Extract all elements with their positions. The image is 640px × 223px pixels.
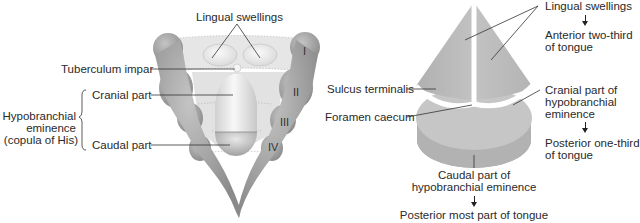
label-lingual-swellings-left: Lingual swellings [196, 11, 283, 24]
label-foramen-caecum: Foramen caecum [325, 111, 414, 124]
label-caudal-part: Caudal part [92, 139, 151, 152]
tongue-diagram [416, 2, 534, 168]
arch-label-2: II [293, 86, 299, 98]
label-lingual-swellings-right: Lingual swellings [545, 0, 632, 13]
label-cranial-line3: eminence [545, 108, 595, 121]
label-tuberculum-impar: Tuberculum impar [61, 63, 153, 76]
label-cranial-part: Cranial part [92, 89, 151, 102]
tongue-development-diagram: Lingual swellings Tuberculum impar Crani… [0, 0, 640, 223]
label-sulcus-terminalis: Sulcus terminalis [327, 83, 414, 96]
hypobranchial-eminence [215, 74, 257, 156]
label-hypobranchial-line3: (copula of His) [0, 134, 78, 147]
tuberculum-impar [233, 64, 241, 72]
arch-label-4: IV [268, 141, 278, 153]
arch-label-1: I [303, 45, 306, 57]
right-lingual-swelling [243, 44, 277, 66]
label-anterior-line2: of tongue [545, 41, 593, 54]
label-posterior-most: Posterior most part of tongue [374, 209, 574, 222]
label-caudal-line2: hypobranchial eminence [394, 181, 554, 194]
label-posterior-one-third-line2: of tongue [545, 149, 593, 162]
arch-label-3: III [280, 116, 289, 128]
